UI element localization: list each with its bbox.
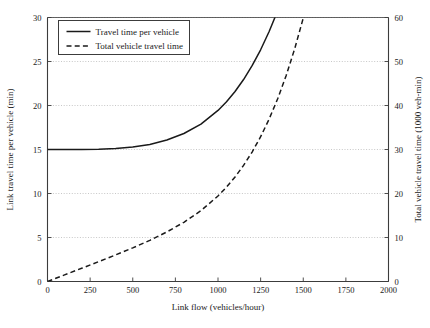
y-right-tick-label: 20 xyxy=(395,189,404,199)
y-left-axis-title: Link travel time per vehicle (min) xyxy=(5,88,15,210)
y-right-tick-label: 10 xyxy=(395,233,404,243)
legend-label: Total vehicle travel time xyxy=(96,41,184,51)
chart-svg: 0250500750100012501500175020000510152025… xyxy=(0,0,430,328)
x-tick-label: 500 xyxy=(126,285,139,295)
chart-figure: 0250500750100012501500175020000510152025… xyxy=(0,0,430,328)
y-right-tick-label: 30 xyxy=(395,145,404,155)
y-left-tick-label: 10 xyxy=(33,189,42,199)
y-left-tick-label: 25 xyxy=(33,57,42,67)
legend-label: Travel time per vehicle xyxy=(96,27,179,37)
x-tick-label: 250 xyxy=(84,285,97,295)
x-tick-label: 1250 xyxy=(252,285,269,295)
y-left-tick-label: 5 xyxy=(37,233,41,243)
y-right-axis-title: Total vehicle travel time (1000 veh-min) xyxy=(413,76,423,222)
x-tick-label: 1750 xyxy=(337,285,354,295)
y-left-tick-label: 20 xyxy=(33,101,42,111)
chart-legend: Travel time per vehicleTotal vehicle tra… xyxy=(59,21,190,55)
y-right-tick-label: 50 xyxy=(395,57,404,67)
x-tick-label: 1000 xyxy=(210,285,227,295)
y-right-tick-label: 40 xyxy=(395,101,404,111)
y-right-tick-label: 60 xyxy=(395,13,404,23)
y-left-tick-label: 15 xyxy=(33,145,42,155)
x-axis-title: Link flow (vehicles/hour) xyxy=(172,302,264,312)
y-left-tick-label: 30 xyxy=(33,13,42,23)
x-tick-label: 0 xyxy=(45,285,49,295)
x-tick-label: 1500 xyxy=(295,285,312,295)
x-tick-label: 750 xyxy=(169,285,182,295)
y-left-tick-label: 0 xyxy=(37,277,41,287)
y-right-tick-label: 0 xyxy=(395,277,399,287)
